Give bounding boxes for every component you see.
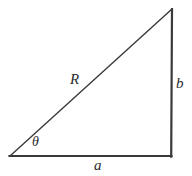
- horizontal-leg-label: a: [94, 158, 102, 173]
- angle-theta-label: θ: [32, 135, 39, 149]
- hypotenuse-label: R: [70, 72, 79, 87]
- vertical-leg-line: [171, 9, 172, 157]
- triangle-diagram: R b a θ: [0, 0, 192, 176]
- triangle-svg: [0, 0, 192, 176]
- vertical-leg-label: b: [176, 76, 184, 91]
